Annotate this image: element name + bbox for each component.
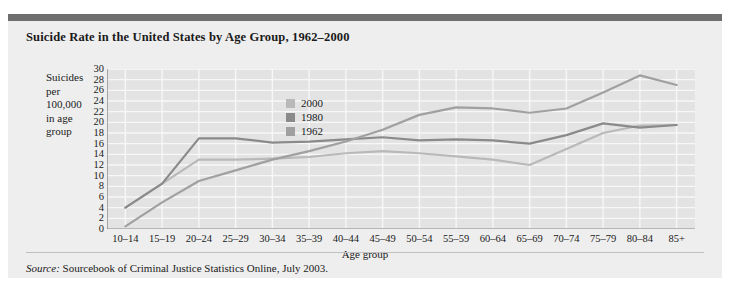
y-tick-label: 20 [94,117,105,128]
x-tick-label: 20–24 [186,234,212,245]
plot-background [107,69,695,229]
page-title: Suicide Rate in the United States by Age… [26,30,350,45]
y-tick-label: 10 [94,170,105,181]
x-tick-label: 45–49 [370,234,396,245]
y-tick-label: 26 [94,85,105,96]
x-tick-label: 25–29 [223,234,249,245]
x-tick-label: 30–34 [259,234,285,245]
figure-top-rule [8,14,722,21]
figure-panel: Suicide Rate in the United States by Age… [8,14,722,278]
y-tick-label: 18 [94,128,105,139]
legend-item-1980: 1980 [286,111,356,124]
legend-label: 1980 [301,112,323,123]
x-tick-label: 75–79 [590,234,616,245]
legend-label: 1962 [301,126,323,137]
legend-swatch-icon [286,127,295,136]
source-divider [26,252,704,253]
x-tick-label: 35–39 [296,234,322,245]
legend-item-1962: 1962 [286,125,356,138]
x-tick-label: 60–64 [480,234,506,245]
x-axis-tick-labels: 10–1415–1920–2425–2930–3435–3940–4445–49… [107,234,695,248]
source-citation: Sourcebook of Criminal Justice Statistic… [60,262,328,274]
line-chart-svg [107,69,695,229]
x-tick-label: 70–74 [553,234,579,245]
legend-label: 2000 [301,98,323,109]
source-note: Source: Sourcebook of Criminal Justice S… [26,262,328,274]
legend-swatch-icon [286,113,295,122]
x-axis-title: Age group [8,248,722,260]
x-tick-label: 10–14 [112,234,138,245]
legend-swatch-icon [286,99,295,108]
plot-area [107,69,695,229]
y-axis-tick-labels: 024681012141618202224262830 [80,64,104,234]
y-tick-label: 28 [94,74,105,85]
source-label: Source: [26,262,60,274]
y-tick-label: 16 [94,138,105,149]
x-tick-label: 80–84 [627,234,653,245]
legend-item-2000: 2000 [286,97,356,110]
y-tick-label: 24 [94,96,105,107]
y-tick-label: 0 [99,224,104,235]
x-tick-label: 40–44 [333,234,359,245]
y-tick-label: 14 [94,149,105,160]
y-tick-label: 4 [99,202,104,213]
y-tick-label: 12 [94,160,105,171]
chart-legend: 200019801962 [286,97,356,139]
y-tick-label: 8 [99,181,104,192]
x-tick-label: 15–19 [149,234,175,245]
y-tick-label: 30 [94,64,105,75]
x-tick-label: 55–59 [443,234,469,245]
x-tick-label: 65–69 [517,234,543,245]
y-tick-label: 6 [99,192,104,203]
x-tick-label: 50–54 [406,234,432,245]
y-tick-label: 22 [94,106,105,117]
x-tick-label: 85+ [668,234,684,245]
y-tick-label: 2 [99,213,104,224]
